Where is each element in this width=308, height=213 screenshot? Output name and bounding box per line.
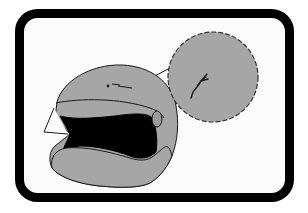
side-vent xyxy=(152,111,162,127)
pictogram-svg xyxy=(0,0,308,213)
helmet-crack-pictogram xyxy=(0,0,308,213)
magnified-callout xyxy=(168,32,258,122)
